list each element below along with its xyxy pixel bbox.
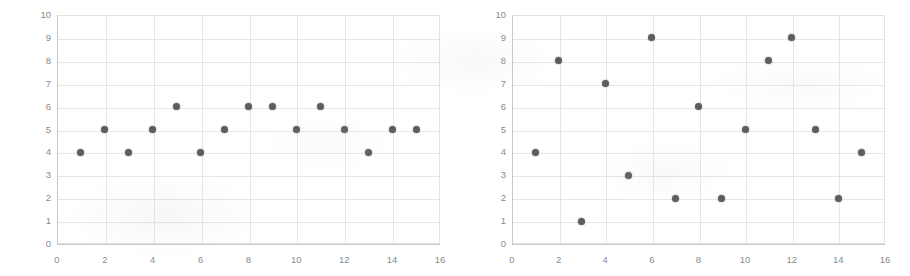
y-axis-tick-label: 8 bbox=[478, 56, 506, 66]
x-axis-tick-label: 12 bbox=[779, 255, 805, 265]
gridline-vertical bbox=[700, 16, 701, 243]
data-point-marker bbox=[602, 80, 609, 87]
y-axis-tick-label: 1 bbox=[478, 216, 506, 226]
data-point-marker bbox=[532, 149, 539, 156]
y-axis-tick-label: 0 bbox=[478, 239, 506, 249]
gridline-vertical bbox=[839, 16, 840, 243]
y-axis-tick-label: 5 bbox=[478, 125, 506, 135]
gridline-horizontal bbox=[513, 176, 884, 177]
gridline-vertical bbox=[653, 16, 654, 243]
gridline-horizontal bbox=[513, 39, 884, 40]
y-axis-tick-label: 10 bbox=[478, 10, 506, 20]
right-scatter-chart: 0123456789100246810121416 bbox=[0, 0, 910, 276]
gridline-vertical bbox=[606, 16, 607, 243]
y-axis-tick-label: 9 bbox=[478, 33, 506, 43]
x-axis-tick-label: 8 bbox=[686, 255, 712, 265]
gridline-horizontal bbox=[513, 199, 884, 200]
y-axis-tick-label: 3 bbox=[478, 170, 506, 180]
x-axis-tick-label: 14 bbox=[825, 255, 851, 265]
data-point-marker bbox=[812, 126, 819, 133]
gridline-horizontal bbox=[513, 85, 884, 86]
data-point-marker bbox=[718, 195, 725, 202]
y-axis-tick-label: 2 bbox=[478, 193, 506, 203]
x-axis-tick-label: 2 bbox=[546, 255, 572, 265]
gridline-vertical bbox=[793, 16, 794, 243]
y-axis-tick-label: 6 bbox=[478, 102, 506, 112]
x-axis-tick-label: 10 bbox=[732, 255, 758, 265]
x-axis-tick-label: 4 bbox=[592, 255, 618, 265]
x-axis-tick-label: 0 bbox=[499, 255, 525, 265]
x-axis-tick-label: 16 bbox=[872, 255, 898, 265]
gridline-horizontal bbox=[513, 62, 884, 63]
y-axis-tick-label: 4 bbox=[478, 147, 506, 157]
data-point-marker bbox=[742, 126, 749, 133]
x-axis-line bbox=[512, 244, 885, 245]
figure-canvas: 0123456789100246810121416 01234567891002… bbox=[0, 0, 910, 276]
x-axis-tick-label: 6 bbox=[639, 255, 665, 265]
data-point-marker bbox=[672, 195, 679, 202]
plot-area bbox=[512, 15, 885, 244]
gridline-horizontal bbox=[513, 222, 884, 223]
data-point-marker bbox=[625, 172, 632, 179]
gridline-horizontal bbox=[513, 131, 884, 132]
data-point-marker bbox=[835, 195, 842, 202]
y-axis-line bbox=[512, 15, 513, 244]
y-axis-tick-label: 7 bbox=[478, 79, 506, 89]
gridline-horizontal bbox=[513, 153, 884, 154]
gridline-vertical bbox=[560, 16, 561, 243]
